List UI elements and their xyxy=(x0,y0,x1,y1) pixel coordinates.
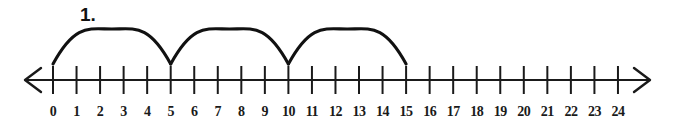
tick-label: 16 xyxy=(423,104,437,119)
tick-label: 0 xyxy=(50,104,57,119)
jump-arc xyxy=(171,29,289,64)
jump-arc xyxy=(288,29,406,64)
tick-label: 24 xyxy=(611,104,625,119)
number-line-diagram: 0123456789101112131415161718192021222324… xyxy=(0,0,678,133)
tick-label: 18 xyxy=(470,104,484,119)
tick-labels: 0123456789101112131415161718192021222324 xyxy=(50,104,625,119)
jump-arcs xyxy=(53,29,406,64)
tick-label: 11 xyxy=(306,104,319,119)
tick-label: 14 xyxy=(376,104,390,119)
tick-label: 20 xyxy=(517,104,531,119)
tick-label: 15 xyxy=(400,104,414,119)
number-line-problem: 0123456789101112131415161718192021222324… xyxy=(0,0,678,133)
tick-label: 2 xyxy=(97,104,104,119)
tick-label: 21 xyxy=(541,104,555,119)
tick-label: 4 xyxy=(144,104,151,119)
tick-label: 19 xyxy=(494,104,508,119)
tick-label: 13 xyxy=(353,104,367,119)
problem-number-label: 1. xyxy=(80,4,96,25)
tick-label: 6 xyxy=(191,104,198,119)
tick-label: 23 xyxy=(588,104,602,119)
tick-label: 17 xyxy=(447,104,461,119)
tick-label: 5 xyxy=(167,104,174,119)
tick-label: 3 xyxy=(120,104,127,119)
tick-label: 22 xyxy=(564,104,578,119)
tick-label: 1 xyxy=(73,104,80,119)
tick-label: 8 xyxy=(238,104,245,119)
tick-label: 10 xyxy=(282,104,296,119)
tick-label: 12 xyxy=(329,104,343,119)
jump-arc xyxy=(53,29,171,64)
tick-label: 9 xyxy=(262,104,269,119)
tick-label: 7 xyxy=(215,104,222,119)
